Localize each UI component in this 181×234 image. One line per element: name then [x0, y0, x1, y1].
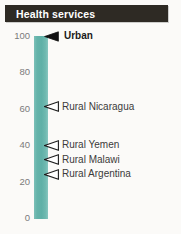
annotation-label: Rural Argentina [62, 169, 131, 179]
y-axis-tick-label: 80 [2, 68, 30, 78]
scale-bar [34, 36, 48, 219]
y-axis-tick-label: 0 [2, 213, 30, 223]
filled-left-triangle-icon [44, 31, 59, 42]
y-axis-tick-label: 60 [2, 104, 30, 114]
y-axis-tick-label: 100 [2, 31, 30, 41]
hollow-left-triangle-icon [44, 140, 59, 151]
annotation-label: Rural Yemen [62, 140, 119, 150]
annotation-marker[interactable]: Rural Nicaragua [44, 101, 134, 113]
annotation-marker[interactable]: Rural Yemen [44, 139, 119, 151]
annotation-label: Rural Nicaragua [62, 102, 134, 112]
y-axis-tick-label: 20 [2, 177, 30, 187]
hollow-left-triangle-icon [44, 101, 59, 112]
hollow-left-triangle-icon [44, 169, 59, 180]
annotation-marker[interactable]: Rural Argentina [44, 168, 131, 180]
page-title: Health services [16, 8, 95, 19]
annotation-label: Rural Malawi [62, 155, 120, 165]
y-axis-tick-label: 40 [2, 140, 30, 150]
chart-plot-area: 100806040200 UrbanRural NicaraguaRural Y… [0, 22, 181, 234]
chart-header-bar: Health services [5, 5, 168, 22]
annotation-label: Urban [64, 31, 93, 41]
hollow-left-triangle-icon [44, 154, 59, 165]
annotation-marker[interactable]: Urban [44, 30, 93, 42]
annotation-marker[interactable]: Rural Malawi [44, 154, 120, 166]
